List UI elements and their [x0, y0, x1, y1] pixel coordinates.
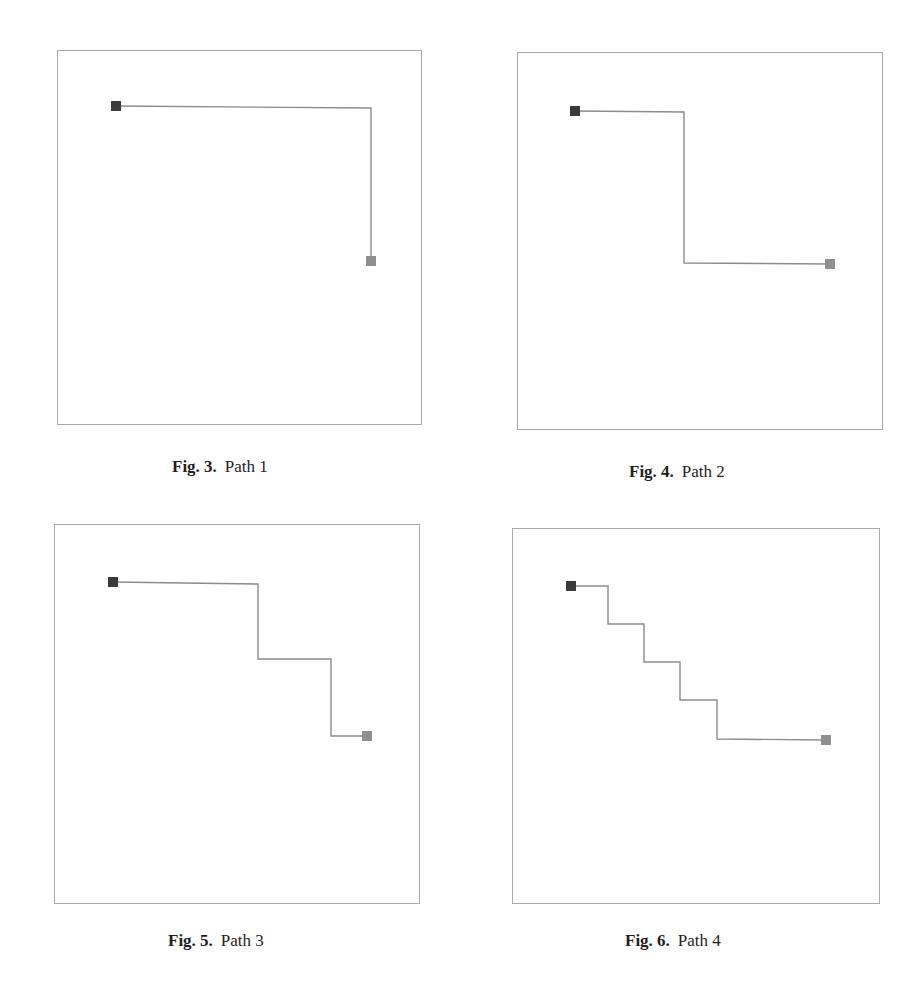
goal-marker-icon [825, 259, 835, 269]
figure-panel-fig6 [512, 528, 880, 904]
figure-caption: Fig. 6.Path 4 [625, 931, 721, 951]
goal-marker-icon [362, 731, 372, 741]
start-marker-icon [108, 577, 118, 587]
start-marker-icon [111, 101, 121, 111]
figure-title: Path 3 [221, 931, 264, 950]
figure-panel-fig3 [57, 50, 422, 425]
path-plot [55, 525, 421, 905]
figure-caption: Fig. 4.Path 2 [629, 462, 725, 482]
path-plot [518, 53, 884, 431]
path-line [113, 582, 367, 736]
figure-title: Path 4 [678, 931, 721, 950]
path-plot [58, 51, 423, 426]
figure-number: Fig. 4. [629, 462, 674, 481]
figure-title: Path 1 [225, 457, 268, 476]
start-marker-icon [566, 581, 576, 591]
figure-panel-fig5 [54, 524, 420, 904]
path-plot [513, 529, 881, 905]
figure-title: Path 2 [682, 462, 725, 481]
start-marker-icon [570, 106, 580, 116]
figure-caption: Fig. 5.Path 3 [168, 931, 264, 951]
figure-number: Fig. 6. [625, 931, 670, 950]
figure-panel-fig4 [517, 52, 883, 430]
goal-marker-icon [821, 735, 831, 745]
figure-number: Fig. 5. [168, 931, 213, 950]
figure-caption: Fig. 3.Path 1 [172, 457, 268, 477]
figure-number: Fig. 3. [172, 457, 217, 476]
goal-marker-icon [366, 256, 376, 266]
path-line [116, 106, 371, 261]
path-line [571, 586, 826, 740]
path-line [575, 111, 830, 264]
